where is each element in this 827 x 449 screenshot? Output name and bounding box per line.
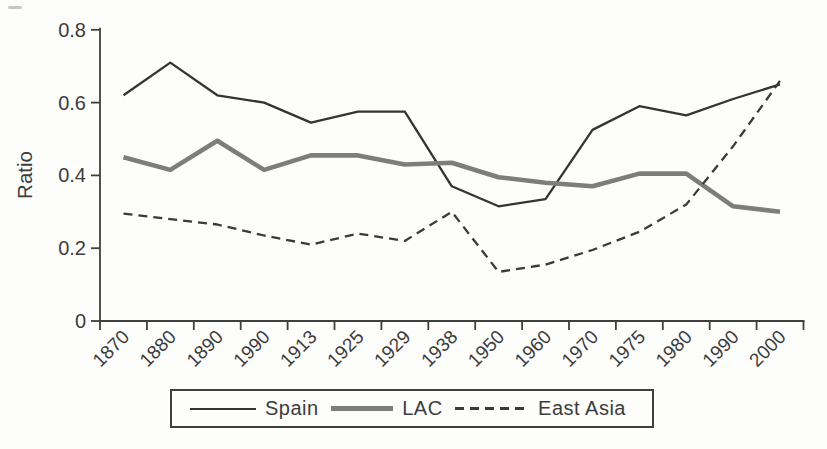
- lac-line-sample-icon: [331, 406, 393, 411]
- y-tick-label: 0.6: [58, 92, 86, 114]
- scanned-chart-page: Ratio 00.20.40.60.8187018801890199019131…: [0, 0, 827, 449]
- x-tick-label: 1975: [604, 326, 649, 371]
- x-tick-label: 1990: [229, 326, 274, 371]
- y-tick-label: 0: [75, 310, 86, 332]
- chart-legend: Spain LAC East Asia: [170, 389, 654, 428]
- spain-line-sample-icon: [190, 408, 256, 410]
- legend-item-spain: Spain: [190, 397, 319, 420]
- chart-axes: 00.20.40.60.8187018801890199019131925192…: [58, 19, 804, 371]
- x-tick-label: 1950: [464, 326, 509, 371]
- line-chart: Ratio 00.20.40.60.8187018801890199019131…: [0, 0, 827, 385]
- series-line-spain: [124, 63, 781, 207]
- x-tick-label: 1990: [698, 326, 743, 371]
- legend-label-eastasia: East Asia: [538, 397, 626, 420]
- x-tick-label: 1890: [182, 326, 227, 371]
- x-tick-label: 1880: [135, 326, 180, 371]
- y-tick-label: 0.4: [58, 164, 86, 186]
- x-tick-label: 1960: [511, 326, 556, 371]
- x-tick-label: 1913: [276, 326, 321, 371]
- legend-label-spain: Spain: [265, 397, 319, 420]
- x-tick-label: 1870: [88, 326, 133, 371]
- x-tick-label: 1938: [417, 326, 462, 371]
- legend-label-lac: LAC: [402, 397, 442, 420]
- x-tick-label: 1929: [370, 326, 415, 371]
- legend-item-lac: LAC: [331, 397, 442, 420]
- legend-item-eastasia: East Asia: [455, 397, 626, 420]
- y-tick-label: 0.8: [58, 19, 86, 41]
- x-tick-label: 1970: [558, 326, 603, 371]
- x-tick-label: 1925: [323, 326, 368, 371]
- y-axis-title: Ratio: [13, 151, 36, 199]
- series-line-east-asia: [124, 81, 781, 272]
- east-asia-line-sample-icon: [455, 407, 529, 409]
- series-line-lac: [124, 141, 781, 212]
- x-tick-label: 2000: [745, 326, 790, 371]
- chart-series: [124, 63, 781, 272]
- y-tick-label: 0.2: [58, 237, 86, 259]
- x-tick-label: 1980: [651, 326, 696, 371]
